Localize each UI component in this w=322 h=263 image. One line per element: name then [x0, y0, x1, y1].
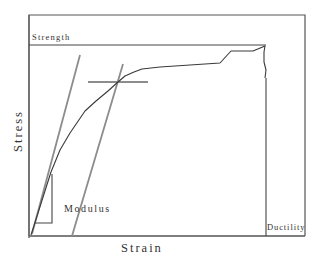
strength-label: Strength: [32, 32, 70, 42]
stress-axis-label: Stress: [11, 110, 25, 152]
ductility-label: Ductility: [267, 222, 305, 232]
stress-strain-diagram: Strength Stress Strain Modulus Ductility: [0, 0, 322, 263]
modulus-label: Modulus: [64, 203, 111, 214]
strain-axis-label: Strain: [121, 241, 163, 255]
diagram-canvas: Strength Stress Strain Modulus Ductility: [0, 0, 322, 263]
